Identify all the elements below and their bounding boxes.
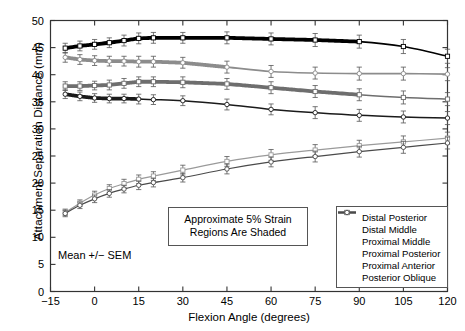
legend-label: Proximal Middle	[361, 236, 430, 247]
data-point-marker	[122, 38, 126, 42]
series-distal-middle	[63, 52, 450, 80]
data-point-marker	[357, 113, 361, 117]
data-point-marker	[445, 54, 449, 58]
legend-item-proximal-posterior[interactable]: Proximal Posterior	[341, 247, 444, 259]
data-point-marker	[93, 83, 97, 87]
data-point-marker	[445, 116, 449, 120]
x-tick-label: 30	[163, 295, 203, 307]
x-tick-label: 15	[119, 295, 159, 307]
data-point-marker	[445, 141, 449, 145]
data-point-marker	[225, 102, 229, 106]
x-tick-label: 0	[75, 295, 115, 307]
legend-item-distal-middle[interactable]: Distal Middle	[341, 223, 444, 235]
data-point-marker	[151, 180, 155, 184]
data-point-marker	[151, 97, 155, 101]
data-point-marker	[181, 80, 185, 84]
legend-key-icon	[341, 236, 361, 247]
data-point-marker	[137, 97, 141, 101]
mean-sem-annotation: Mean +/− SEM	[58, 249, 131, 261]
legend-key-icon	[341, 248, 361, 259]
data-point-marker	[92, 96, 96, 100]
data-point-marker	[122, 96, 126, 100]
series-proximal-posterior	[63, 90, 450, 125]
legend-key-icon	[341, 260, 361, 271]
data-point-marker	[269, 153, 273, 157]
legend-item-posterior-oblique[interactable]: Posterior Oblique	[341, 271, 444, 283]
legend-label: Distal Posterior	[361, 212, 427, 223]
data-point-marker	[107, 191, 111, 195]
data-point-marker	[107, 83, 111, 87]
data-point-marker	[313, 154, 317, 158]
data-point-marker	[137, 80, 141, 84]
data-point-marker	[401, 115, 405, 119]
data-point-marker	[401, 145, 405, 149]
data-point-marker	[122, 59, 126, 63]
data-point-marker	[151, 36, 155, 40]
data-point-marker	[445, 97, 449, 101]
series-line	[65, 143, 447, 213]
data-point-marker	[225, 159, 229, 163]
data-point-marker	[181, 36, 185, 40]
data-point-marker	[137, 59, 141, 63]
x-tick-label: 105	[383, 295, 423, 307]
series-shaded-strain-region	[65, 57, 227, 67]
x-axis-title: Flexion Angle (degrees)	[50, 311, 448, 323]
data-point-marker	[151, 174, 155, 178]
data-point-marker	[357, 149, 361, 153]
data-point-marker	[181, 61, 185, 65]
data-point-marker	[137, 36, 141, 40]
data-point-marker	[313, 38, 317, 42]
data-point-marker	[107, 41, 111, 45]
legend-item-proximal-anterior[interactable]: Proximal Anterior	[341, 259, 444, 271]
legend-label: Proximal Posterior	[361, 248, 440, 259]
y-axis-title: Attachment Separation Distance (mm)	[32, 11, 44, 271]
data-point-marker	[269, 107, 273, 111]
data-point-marker	[92, 197, 96, 201]
data-point-marker	[401, 44, 405, 48]
legend-item-proximal-middle[interactable]: Proximal Middle	[341, 235, 444, 247]
x-tick-label: 120	[428, 295, 465, 307]
data-point-marker	[63, 55, 67, 59]
x-tick-label: 75	[295, 295, 335, 307]
data-point-marker	[269, 160, 273, 164]
data-point-marker	[122, 81, 126, 85]
data-point-marker	[107, 59, 111, 63]
legend-label: Proximal Anterior	[361, 260, 435, 271]
legend-key-icon	[341, 224, 361, 235]
x-tick-label: 45	[207, 295, 247, 307]
data-point-marker	[151, 80, 155, 84]
data-point-marker	[63, 84, 67, 88]
data-point-marker	[357, 40, 361, 44]
data-point-marker	[313, 89, 317, 93]
data-point-marker	[78, 94, 82, 98]
chart-figure: 05101520253035404550 −150153045607590105…	[0, 0, 465, 331]
strain-annotation-line1: Approximate 5% Strain	[171, 213, 305, 226]
data-point-marker	[63, 92, 67, 96]
data-point-marker	[225, 167, 229, 171]
data-point-marker	[225, 82, 229, 86]
data-point-marker	[181, 99, 185, 103]
data-point-marker	[313, 71, 317, 75]
series-distal-posterior	[63, 32, 450, 63]
data-point-marker	[225, 65, 229, 69]
data-point-marker	[269, 37, 273, 41]
data-point-marker	[93, 42, 97, 46]
data-point-marker	[92, 58, 96, 62]
data-point-marker	[401, 71, 405, 75]
series-proximal-anterior	[63, 132, 450, 215]
data-point-marker	[63, 46, 67, 50]
series-posterior-oblique	[63, 137, 450, 217]
data-point-marker	[78, 84, 82, 88]
data-point-marker	[225, 36, 229, 40]
data-point-marker	[151, 59, 155, 63]
legend-label: Distal Middle	[361, 224, 417, 235]
data-point-marker	[357, 93, 361, 97]
series-shaded-strain-region	[65, 94, 139, 99]
legend-label: Posterior Oblique	[361, 272, 436, 283]
data-point-marker	[63, 211, 67, 215]
x-tick-label: 90	[339, 295, 379, 307]
data-point-marker	[401, 95, 405, 99]
x-tick-label: 60	[251, 295, 291, 307]
data-point-marker	[137, 183, 141, 187]
data-point-marker	[78, 57, 82, 61]
